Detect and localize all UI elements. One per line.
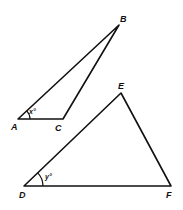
triangle-abc-outline: [18, 25, 119, 119]
vertex-c-label: C: [55, 123, 62, 133]
vertex-a-label: A: [10, 122, 18, 132]
angle-a-label: x°: [28, 108, 36, 115]
triangle-def: y° D E F: [19, 81, 172, 200]
vertex-f-label: F: [166, 190, 172, 200]
vertex-b-label: B: [120, 14, 127, 24]
angle-d-label: y°: [44, 173, 52, 181]
geometry-figure: x° A B C y° D E F: [0, 0, 183, 210]
vertex-d-label: D: [19, 190, 26, 200]
triangle-abc: x° A B C: [10, 14, 127, 133]
angle-d-arc: [38, 173, 43, 186]
vertex-e-label: E: [118, 81, 125, 91]
